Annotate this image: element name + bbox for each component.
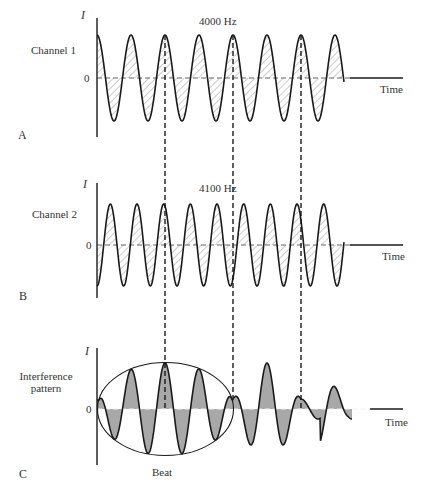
- panel-b: [97, 183, 403, 298]
- panel-b-letter: B: [19, 290, 27, 302]
- panel-a-time-label: Time: [380, 83, 403, 95]
- panel-c-channel-label-line2: pattern: [16, 382, 76, 394]
- panel-a: [97, 18, 403, 137]
- panel-c-letter: C: [19, 468, 27, 480]
- panel-c: [97, 348, 403, 465]
- panel-b-frequency-label: 4100 Hz: [199, 182, 237, 194]
- beat-label: Beat: [152, 466, 172, 478]
- panel-c-channel-label-line1: Interference: [16, 370, 76, 382]
- panel-c-y-axis-label: I: [85, 345, 89, 357]
- panel-b-y-axis-label: I: [83, 178, 87, 190]
- panel-a-zero-label: 0: [84, 72, 90, 84]
- panel-b-time-label: Time: [382, 250, 405, 262]
- panel-c-time-label: Time: [385, 416, 408, 428]
- panel-a-channel-label: Channel 1: [31, 44, 76, 56]
- panel-a-frequency-label: 4000 Hz: [199, 15, 237, 27]
- panel-b-zero-label: 0: [86, 239, 92, 251]
- panel-c-zero-label: 0: [86, 403, 92, 415]
- panel-a-letter: A: [18, 129, 27, 141]
- panel-b-channel-label: Channel 2: [32, 208, 77, 220]
- beat-diagram-canvas: [0, 0, 422, 493]
- panel-a-y-axis-label: I: [81, 9, 85, 21]
